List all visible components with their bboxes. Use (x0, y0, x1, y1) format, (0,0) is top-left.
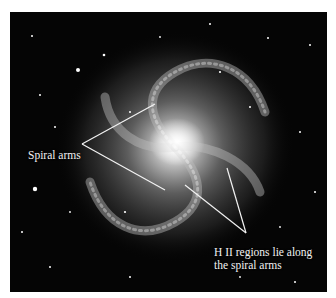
hii-label-line2: the spiral arms (214, 259, 312, 272)
hii-regions-label: H II regions lie along the spiral arms (214, 246, 312, 272)
galaxy-photo: Spiral arms H II regions lie along the s… (10, 12, 327, 292)
hii-label-line1: H II regions lie along (214, 246, 312, 259)
spiral-arms-label: Spiral arms (28, 149, 81, 162)
